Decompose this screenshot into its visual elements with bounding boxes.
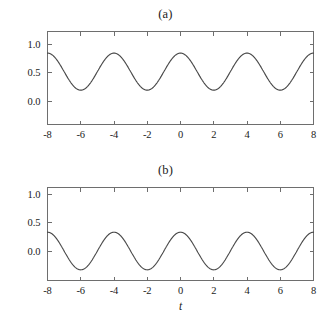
figure-root: (a) 1.00.50.0-8-6-4-202468 (b) 1.00.50.0… [0,0,331,312]
y-tick-label: 0.5 [27,67,40,78]
x-tick-label: 4 [244,129,250,140]
y-tick-label: 0.0 [27,96,40,107]
panel-a: (a) 1.00.50.0-8-6-4-202468 [0,0,331,156]
x-tick-label: -8 [43,129,52,140]
x-tick-label: -4 [110,129,119,140]
x-tick-label: -2 [143,129,152,140]
x-tick-label: -8 [43,285,52,296]
data-curve [48,232,314,270]
panel-b-plot: 1.00.50.0-8-6-4-202468t [0,156,331,312]
y-tick-label: 0.5 [27,217,40,228]
axis-frame [48,32,314,125]
x-tick-label: -6 [76,285,85,296]
panel-b: (b) 1.00.50.0-8-6-4-202468t [0,156,331,312]
x-tick-label: 0 [178,285,183,296]
y-tick-label: 1.0 [27,39,40,50]
y-tick-label: 1.0 [27,189,40,200]
x-tick-label: 6 [278,129,283,140]
x-tick-label: 4 [244,285,250,296]
x-tick-label: 8 [311,285,316,296]
x-tick-label: -4 [110,285,119,296]
x-axis-title: t [179,300,183,312]
x-tick-label: 6 [278,285,283,296]
y-tick-label: 0.0 [27,246,40,257]
x-tick-label: 0 [178,129,183,140]
x-tick-label: 2 [211,129,216,140]
panel-a-plot: 1.00.50.0-8-6-4-202468 [0,0,331,156]
x-tick-label: -2 [143,285,152,296]
x-tick-label: -6 [76,129,85,140]
x-tick-label: 8 [311,129,316,140]
x-tick-label: 2 [211,285,216,296]
data-curve [48,53,314,90]
